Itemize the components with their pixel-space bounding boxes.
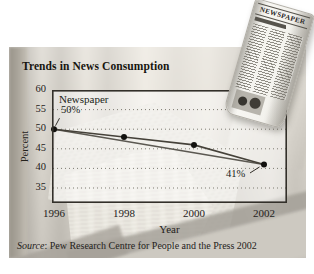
newspaper-text-columns: [235, 23, 303, 101]
y-tick-35: 35: [9, 181, 46, 192]
source-note: Source: Pew Research Centre for People a…: [17, 240, 257, 251]
y-tick-55: 55: [9, 103, 46, 114]
y-tick-60: 60: [9, 83, 46, 94]
source-word: Source: [17, 240, 44, 251]
series-label-newspaper: Newspaper: [59, 93, 108, 105]
figure-page: Trends in News Consumption Percent 60555…: [0, 0, 314, 274]
source-text: : Pew Research Centre for People and the…: [44, 240, 256, 251]
y-tick-50: 50: [9, 122, 46, 133]
annotation-41%: 41%: [226, 168, 245, 179]
y-tick-45: 45: [9, 142, 46, 153]
x-axis-label: Year: [52, 223, 287, 235]
x-axis-ticks: 1996199820002002: [52, 207, 287, 221]
chart-title: Trends in News Consumption: [22, 60, 170, 72]
x-tick-1996: 1996: [34, 207, 74, 219]
x-tick-1998: 1998: [104, 207, 144, 219]
y-axis-ticks: 605550454035: [9, 90, 46, 203]
x-tick-2000: 2000: [174, 207, 214, 219]
x-tick-2002: 2002: [244, 207, 284, 219]
y-tick-40: 40: [9, 161, 46, 172]
annotation-50%: 50%: [61, 104, 80, 115]
